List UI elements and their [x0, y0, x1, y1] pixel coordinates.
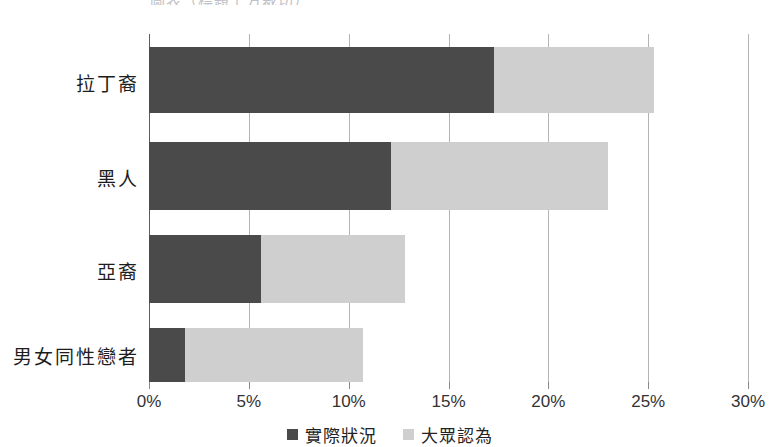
- y-axis-label-2: 亞裔: [97, 257, 139, 284]
- plot-area: [149, 34, 748, 382]
- legend-swatch-icon-actual: [287, 429, 298, 440]
- legend-swatch-icon-perceived: [403, 429, 414, 440]
- legend-label-perceived: 大眾認為: [421, 422, 493, 447]
- y-axis-label-3: 男女同性戀者: [13, 342, 139, 369]
- bar-segment-actual-1: [149, 142, 391, 210]
- x-tick-mark-0: [149, 382, 150, 389]
- x-tick-mark-5: [249, 382, 250, 389]
- x-tick-label-25: 25%: [631, 392, 665, 412]
- legend-label-actual: 實際狀況: [305, 422, 377, 447]
- chart-title-text: 圖表（標題上方裁切）: [150, 0, 310, 5]
- x-tick-mark-30: [748, 382, 749, 389]
- x-tick-mark-20: [548, 382, 549, 389]
- chart-page: 圖表（標題上方裁切） 拉丁裔 黑人 亞裔 男女同性戀者: [0, 0, 779, 447]
- x-tick-label-0: 0%: [137, 392, 162, 412]
- bar-segment-actual-2: [149, 235, 261, 303]
- gridline-30: [748, 34, 749, 382]
- bar-segment-actual-3: [149, 328, 185, 382]
- x-tick-mark-25: [648, 382, 649, 389]
- y-axis-label-0: 拉丁裔: [76, 69, 139, 96]
- x-tick-mark-10: [349, 382, 350, 389]
- chart-legend: 實際狀況 大眾認為: [0, 422, 779, 447]
- legend-item-perceived: 大眾認為: [403, 422, 493, 447]
- x-tick-label-30: 30%: [731, 392, 765, 412]
- x-tick-label-10: 10%: [332, 392, 366, 412]
- x-tick-label-15: 15%: [431, 392, 465, 412]
- y-axis-labels: 拉丁裔 黑人 亞裔 男女同性戀者: [0, 0, 139, 447]
- x-tick-mark-15: [449, 382, 450, 389]
- y-axis-label-1: 黑人: [97, 164, 139, 191]
- bar-segment-actual-0: [149, 47, 494, 113]
- x-tick-label-5: 5%: [237, 392, 262, 412]
- x-tick-label-20: 20%: [531, 392, 565, 412]
- legend-item-actual: 實際狀況: [287, 422, 377, 447]
